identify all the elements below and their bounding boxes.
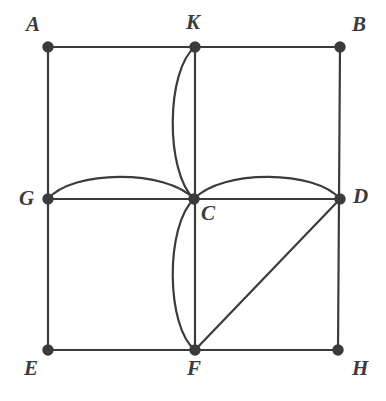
vertex-dot-G [43,194,52,203]
vertex-dot-E [43,345,52,354]
diagonal-D-F [195,199,340,350]
vertex-dot-A [43,42,52,51]
vertex-label-B: B [352,14,366,35]
vertex-dot-K [190,42,199,51]
vertex-dot-C [189,194,198,203]
vertex-label-D: D [353,186,368,207]
arc-G-C [48,177,194,199]
vertex-label-F: F [187,358,201,379]
vertex-dot-H [333,345,342,354]
vertex-dot-D [335,194,344,203]
vertex-label-K: K [186,12,200,33]
vertex-dot-B [335,42,344,51]
geometry-figure: A B K G C D E F H [0,0,386,401]
vertex-label-C: C [201,203,215,224]
geometry-canvas [0,0,386,401]
vertex-dot-F [190,345,199,354]
vertex-label-A: A [26,14,40,35]
arc-K-C [173,47,195,199]
vertex-label-H: H [352,358,368,379]
diagonal-lines [195,199,340,350]
vertex-label-G: G [19,188,34,209]
arc-C-F [173,199,195,350]
arc-C-D [194,177,340,199]
vertex-label-E: E [24,358,38,379]
